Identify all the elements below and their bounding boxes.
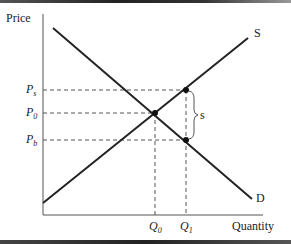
supply-curve bbox=[43, 38, 248, 203]
x-axis-label: Quantity bbox=[232, 219, 274, 233]
ps-label: Ps bbox=[25, 82, 36, 98]
q1-label: Q1 bbox=[180, 219, 193, 235]
q0-label: Q0 bbox=[149, 219, 162, 235]
pb-label: Pb bbox=[25, 132, 37, 148]
supply-demand-diagram: s Price Quantity S D Ps P0 Pb Q0 Q1 bbox=[0, 0, 291, 244]
y-axis-label: Price bbox=[6, 11, 31, 25]
bottom-border bbox=[0, 240, 291, 244]
p0-label: P0 bbox=[25, 105, 37, 121]
demand-label: D bbox=[256, 191, 265, 205]
equilibrium-point bbox=[152, 110, 158, 116]
supply-label: S bbox=[254, 26, 261, 40]
seller-price-point bbox=[183, 87, 189, 93]
subsidy-brace bbox=[189, 91, 198, 139]
buyer-price-point bbox=[183, 137, 189, 143]
subsidy-label: s bbox=[200, 108, 205, 122]
